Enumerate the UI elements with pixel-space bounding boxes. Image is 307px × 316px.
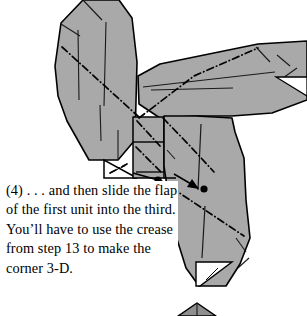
alignment-dot-target	[200, 185, 207, 192]
step-caption: (4) . . . and then slide the flap of the…	[6, 181, 178, 278]
origami-step-figure-page: (4) . . . and then slide the flap of the…	[0, 0, 307, 316]
